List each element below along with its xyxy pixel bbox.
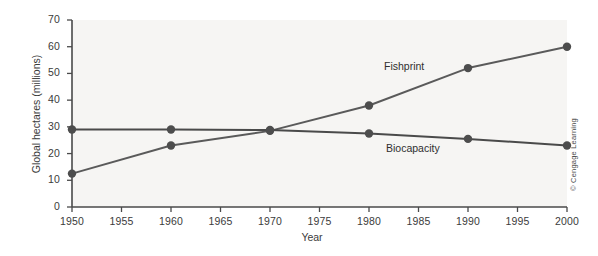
x-tick-label: 1975 bbox=[300, 215, 340, 227]
data-point-marker bbox=[167, 141, 175, 149]
x-tick-label: 1995 bbox=[498, 215, 538, 227]
x-tick-label: 1965 bbox=[201, 215, 241, 227]
x-tick-label: 2000 bbox=[547, 215, 587, 227]
x-tick-label: 1985 bbox=[399, 215, 439, 227]
data-point-marker bbox=[365, 129, 373, 137]
series-lines bbox=[72, 47, 567, 174]
data-point-marker bbox=[365, 101, 373, 109]
series-line-fishprint bbox=[72, 47, 567, 174]
x-tick-label: 1950 bbox=[52, 215, 92, 227]
data-point-marker bbox=[68, 169, 76, 177]
data-point-marker bbox=[266, 126, 274, 134]
data-point-marker bbox=[563, 43, 571, 51]
y-tick-label: 0 bbox=[34, 200, 60, 212]
x-tick-label: 1955 bbox=[102, 215, 142, 227]
x-axis-title: Year bbox=[282, 231, 342, 243]
data-point-marker bbox=[167, 125, 175, 133]
x-tick-label: 1970 bbox=[250, 215, 290, 227]
series-label-biocapacity: Biocapacity bbox=[386, 142, 440, 154]
x-tick-label: 1960 bbox=[151, 215, 191, 227]
y-axis-title: Global hectares (millions) bbox=[30, 34, 42, 194]
series-line-biocapacity bbox=[72, 130, 567, 146]
data-point-marker bbox=[68, 125, 76, 133]
y-tick-label: 70 bbox=[34, 13, 60, 25]
x-tick-label: 1980 bbox=[349, 215, 389, 227]
copyright-credit: © Cengage Learning bbox=[569, 95, 578, 215]
chart-figure: 010203040506070 195019551960196519701975… bbox=[0, 0, 598, 256]
x-tick-label: 1990 bbox=[448, 215, 488, 227]
data-point-marker bbox=[464, 135, 472, 143]
data-point-marker bbox=[464, 64, 472, 72]
series-label-fishprint: Fishprint bbox=[384, 60, 424, 72]
